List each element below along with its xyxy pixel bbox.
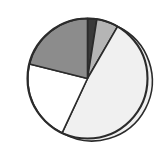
pie-chart-svg [0,0,162,150]
pie-chart-figure [0,0,162,150]
